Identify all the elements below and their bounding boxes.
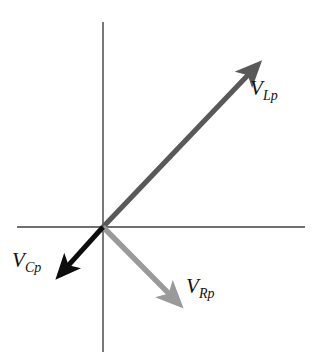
phasor-diagram: VLp VRp VCp	[0, 0, 323, 360]
phasor-plot-canvas	[0, 0, 323, 360]
phasor-label-vrp-subscript: Rp	[199, 286, 215, 301]
phasor-label-vrp-base: V	[186, 274, 199, 298]
phasor-label-vcp-base: V	[12, 248, 25, 272]
phasor-label-vlp-subscript: Lp	[263, 88, 278, 103]
phasor-label-vrp: VRp	[186, 276, 214, 301]
phasor-label-vcp: VCp	[12, 250, 41, 275]
phasor-arrow-vrp	[103, 227, 179, 304]
phasor-arrow-vcp	[59, 227, 103, 275]
phasor-label-vlp-base: V	[250, 76, 263, 100]
phasor-arrow-vlp	[103, 65, 258, 227]
phasor-label-vlp: VLp	[250, 78, 278, 103]
phasor-label-vcp-subscript: Cp	[25, 260, 41, 275]
